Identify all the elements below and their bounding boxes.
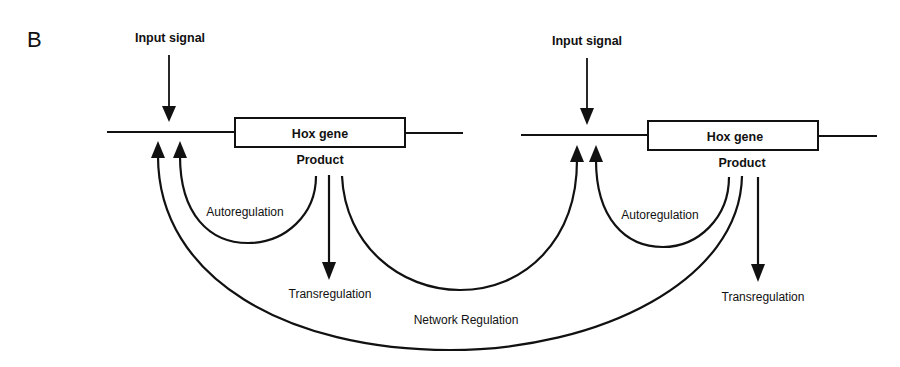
right-gene-unit: Input signal Hox gene Product Autoregula… [521,34,877,304]
hox-regulation-diagram: B Input signal Hox gene Product Autoregu… [0,0,900,367]
left-transregulation-label: Transregulation [289,287,372,301]
left-transregulation-arrow-icon [322,175,336,280]
left-input-signal-label: Input signal [135,31,205,45]
right-product-label: Product [718,156,766,170]
left-input-arrow-icon [162,55,176,122]
right-hox-gene-label: Hox gene [707,130,763,144]
panel-label: B [27,27,42,52]
right-input-signal-label: Input signal [552,34,622,48]
left-autoregulation-arrow-icon [173,141,316,243]
right-input-arrow-icon [580,58,594,125]
right-transregulation-label: Transregulation [722,290,805,304]
left-autoregulation-label: Autoregulation [206,205,283,219]
left-product-label: Product [296,153,344,167]
right-autoregulation-label: Autoregulation [621,208,698,222]
right-autoregulation-arrow-icon [589,145,729,247]
right-transregulation-arrow-icon [751,177,765,282]
left-hox-gene-label: Hox gene [292,127,348,141]
network-regulation-inner-arrow-icon [342,145,584,290]
network-regulation-label: Network Regulation [414,313,519,327]
left-gene-unit: Input signal Hox gene Product Autoregula… [107,31,463,301]
